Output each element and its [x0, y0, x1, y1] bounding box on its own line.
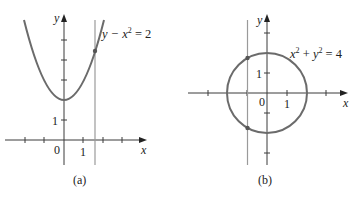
- intersection-point: [93, 49, 97, 53]
- x-axis-label: x: [342, 96, 349, 110]
- origin-label: 0: [259, 95, 265, 109]
- intersection-point-upper: [245, 56, 249, 60]
- y-tick-label-1: 1: [256, 67, 262, 81]
- x-tick-label-1: 1: [80, 145, 86, 159]
- caption-a: (a): [73, 173, 86, 187]
- y-tick-label-1: 1: [52, 114, 58, 128]
- x-tick-label-1: 1: [284, 97, 290, 111]
- panel-b: y x 0 1 1 x2 + y2 = 4 (b): [188, 13, 349, 187]
- equation-label: y − x2 = 2: [100, 26, 151, 41]
- intersection-point-lower: [245, 126, 249, 130]
- y-axis-label: y: [53, 11, 60, 25]
- y-axis-label: y: [256, 13, 263, 27]
- figure: y x 0 1 1 y − x2 = 2 (a): [0, 0, 356, 198]
- y-axis-arrow-icon: [264, 14, 270, 22]
- y-axis-arrow-icon: [61, 14, 67, 22]
- origin-label: 0: [54, 143, 60, 157]
- panel-a: y x 0 1 1 y − x2 = 2 (a): [5, 11, 151, 187]
- equation-label: x2 + y2 = 4: [289, 46, 343, 61]
- x-axis-label: x: [140, 143, 147, 157]
- caption-b: (b): [258, 173, 272, 187]
